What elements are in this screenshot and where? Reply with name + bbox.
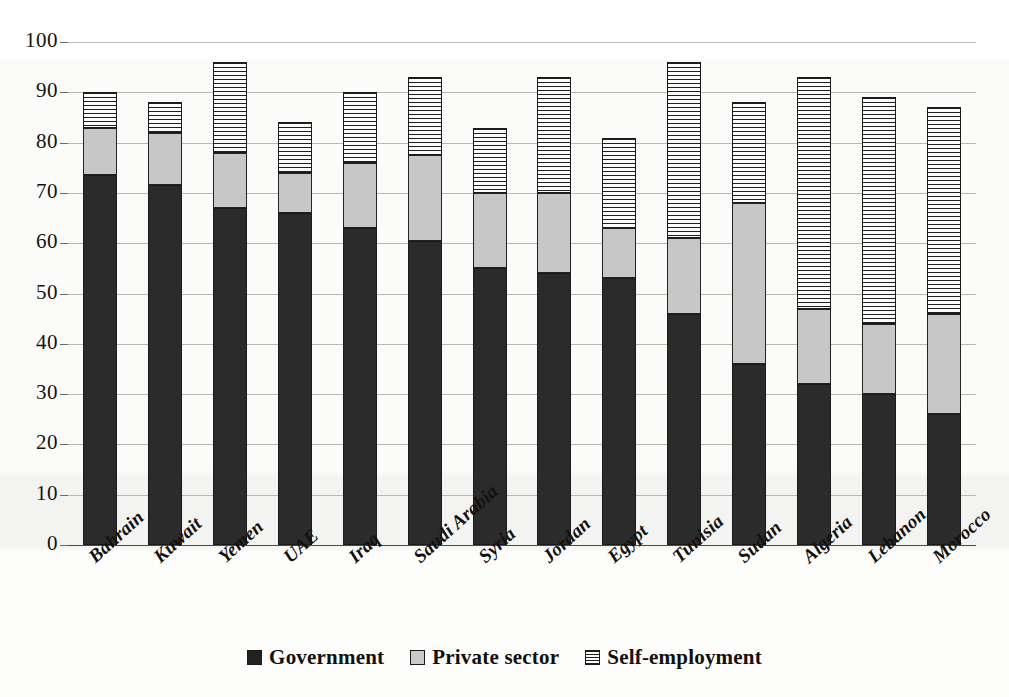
bar-segment-gov-tunisia bbox=[667, 314, 701, 545]
legend-label-self-employment: Self-employment bbox=[607, 645, 762, 670]
legend-swatch-private-sector-icon bbox=[410, 650, 425, 665]
y-axis-tick-100: 100 bbox=[0, 28, 58, 53]
gridline-70 bbox=[68, 193, 976, 194]
bar-segment-priv-algeria bbox=[797, 309, 831, 384]
bar-iraq bbox=[343, 42, 377, 545]
bar-segment-gov-lebanon bbox=[862, 394, 896, 545]
bar-segment-priv-tunisia bbox=[667, 238, 701, 313]
bar-segment-self-yemen bbox=[213, 62, 247, 153]
y-axis-tick-30: 30 bbox=[0, 380, 58, 405]
bar-segment-gov-uae bbox=[278, 213, 312, 545]
gridline-30 bbox=[68, 394, 976, 395]
bar-segment-self-sudan bbox=[732, 102, 766, 203]
bar-algeria bbox=[797, 42, 831, 545]
bar-segment-gov-yemen bbox=[213, 208, 247, 545]
y-axis-tickmark-40 bbox=[60, 344, 68, 345]
bar-segment-priv-bahrain bbox=[83, 128, 117, 176]
plot-area bbox=[68, 42, 976, 545]
bar-segment-priv-saudi-arabia bbox=[408, 155, 442, 241]
bar-segment-priv-sudan bbox=[732, 203, 766, 364]
gridline-100 bbox=[68, 42, 976, 43]
bar-bahrain bbox=[83, 42, 117, 545]
y-axis: 1009080706050403020100 bbox=[0, 42, 58, 545]
bar-segment-priv-iraq bbox=[343, 163, 377, 228]
y-axis-tick-60: 60 bbox=[0, 229, 58, 254]
bar-segment-self-egypt bbox=[602, 138, 636, 229]
y-axis-tickmark-50 bbox=[60, 294, 68, 295]
chart-page: 1009080706050403020100 BahrainKuwaitYeme… bbox=[0, 0, 1009, 697]
legend-item-private-sector[interactable]: Private sector bbox=[410, 645, 559, 670]
bar-yemen bbox=[213, 42, 247, 545]
y-axis-tickmark-10 bbox=[60, 495, 68, 496]
y-axis-tickmark-90 bbox=[60, 92, 68, 93]
bar-segment-self-syria bbox=[473, 128, 507, 193]
y-axis-tick-90: 90 bbox=[0, 78, 58, 103]
gridline-60 bbox=[68, 243, 976, 244]
bar-segment-self-kuwait bbox=[148, 102, 182, 132]
bar-segment-gov-bahrain bbox=[83, 175, 117, 545]
bar-segment-gov-iraq bbox=[343, 228, 377, 545]
bar-segment-gov-saudi-arabia bbox=[408, 241, 442, 545]
legend-swatch-government-icon bbox=[247, 650, 262, 665]
legend-item-self-employment[interactable]: Self-employment bbox=[585, 645, 762, 670]
bar-segment-self-tunisia bbox=[667, 62, 701, 238]
bar-segment-self-morocco bbox=[927, 107, 961, 313]
bar-kuwait bbox=[148, 42, 182, 545]
y-axis-tick-10: 10 bbox=[0, 481, 58, 506]
bar-segment-gov-sudan bbox=[732, 364, 766, 545]
bar-segment-priv-jordan bbox=[537, 193, 571, 273]
legend-item-government[interactable]: Government bbox=[247, 645, 384, 670]
y-axis-tickmark-70 bbox=[60, 193, 68, 194]
y-axis-tickmark-60 bbox=[60, 243, 68, 244]
bar-uae bbox=[278, 42, 312, 545]
bar-syria bbox=[473, 42, 507, 545]
bar-segment-priv-morocco bbox=[927, 314, 961, 415]
y-axis-tickmark-30 bbox=[60, 394, 68, 395]
y-axis-tick-20: 20 bbox=[0, 430, 58, 455]
bar-segment-self-jordan bbox=[537, 77, 571, 193]
bar-segment-priv-syria bbox=[473, 193, 507, 268]
gridline-90 bbox=[68, 92, 976, 93]
bar-segment-priv-uae bbox=[278, 173, 312, 213]
y-axis-tick-80: 80 bbox=[0, 129, 58, 154]
bar-segment-gov-jordan bbox=[537, 273, 571, 545]
y-axis-tick-40: 40 bbox=[0, 330, 58, 355]
bar-segment-gov-egypt bbox=[602, 278, 636, 545]
bar-morocco bbox=[927, 42, 961, 545]
gridline-10 bbox=[68, 495, 976, 496]
bar-segment-priv-yemen bbox=[213, 153, 247, 208]
chart-legend: GovernmentPrivate sectorSelf-employment bbox=[0, 645, 1009, 670]
bar-segment-gov-kuwait bbox=[148, 185, 182, 545]
bar-tunisia bbox=[667, 42, 701, 545]
bar-segment-self-bahrain bbox=[83, 92, 117, 127]
bar-segment-self-uae bbox=[278, 122, 312, 172]
bar-segment-priv-egypt bbox=[602, 228, 636, 278]
bar-segment-priv-lebanon bbox=[862, 324, 896, 394]
y-axis-tick-50: 50 bbox=[0, 280, 58, 305]
bar-segment-self-iraq bbox=[343, 92, 377, 162]
bar-segment-gov-algeria bbox=[797, 384, 831, 545]
bar-saudi-arabia bbox=[408, 42, 442, 545]
bar-lebanon bbox=[862, 42, 896, 545]
y-axis-tickmark-20 bbox=[60, 444, 68, 445]
legend-label-government: Government bbox=[269, 645, 384, 670]
y-axis-tickmark-0 bbox=[60, 545, 68, 546]
y-axis-tickmark-100 bbox=[60, 42, 68, 43]
gridline-40 bbox=[68, 344, 976, 345]
bar-sudan bbox=[732, 42, 766, 545]
bar-segment-self-saudi-arabia bbox=[408, 77, 442, 155]
bar-egypt bbox=[602, 42, 636, 545]
bar-segment-self-lebanon bbox=[862, 97, 896, 323]
gridline-50 bbox=[68, 294, 976, 295]
gridline-20 bbox=[68, 444, 976, 445]
y-axis-tick-0: 0 bbox=[0, 531, 58, 556]
x-axis-labels: BahrainKuwaitYemenUAEIraqSaudi ArabiaSyr… bbox=[68, 545, 976, 640]
legend-swatch-self-employment-icon bbox=[585, 650, 600, 665]
legend-label-private-sector: Private sector bbox=[432, 645, 559, 670]
gridline-80 bbox=[68, 143, 976, 144]
bar-jordan bbox=[537, 42, 571, 545]
bar-segment-priv-kuwait bbox=[148, 133, 182, 186]
bar-segment-self-algeria bbox=[797, 77, 831, 308]
y-axis-tickmark-80 bbox=[60, 143, 68, 144]
y-axis-tick-70: 70 bbox=[0, 179, 58, 204]
